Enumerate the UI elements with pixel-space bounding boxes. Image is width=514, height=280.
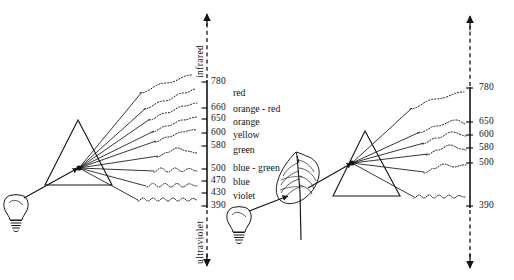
axis-label-infrared: infrared — [196, 32, 206, 78]
leaf — [276, 152, 319, 240]
tick-value-600-left: 600 — [211, 128, 226, 138]
tick-value-390-right: 390 — [479, 201, 494, 211]
spectrum-diagram: infrared ultraviolet 780 660 650 600 580… — [0, 0, 514, 280]
refracted-ray-fan-right — [350, 108, 429, 197]
color-label-orange-red: orange - red — [233, 104, 280, 114]
tick-value-430-left: 430 — [211, 188, 226, 198]
tick-value-650-left: 650 — [211, 114, 226, 124]
tick-value-580-left: 580 — [211, 141, 226, 151]
color-label-blue: blue — [233, 177, 250, 187]
tick-value-580-right: 580 — [479, 143, 494, 153]
tick-value-500-left: 500 — [211, 164, 226, 174]
tick-value-780-left: 780 — [211, 77, 226, 87]
tick-value-660-left: 660 — [211, 103, 226, 113]
tick-value-470-left: 470 — [211, 176, 226, 186]
prism-right — [333, 131, 400, 196]
tick-value-600-right: 600 — [479, 130, 494, 140]
axis-label-ultraviolet: ultraviolet — [196, 208, 206, 264]
transmitted-waves-right — [410, 92, 466, 198]
tick-value-780-right: 780 — [479, 83, 494, 93]
tick-value-650-right: 650 — [479, 117, 494, 127]
refracted-ray-fan-left — [76, 92, 158, 200]
light-bulb-right — [227, 207, 251, 244]
light-bulb-left — [4, 195, 28, 232]
wavelength-axis-right — [466, 16, 473, 268]
color-label-blue-green: blue - green — [233, 163, 280, 173]
diagram-artwork — [0, 0, 514, 280]
tick-value-500-right: 500 — [479, 158, 494, 168]
color-label-violet: violet — [233, 191, 255, 201]
ray-leaf-to-prism — [308, 163, 352, 188]
color-label-green: green — [233, 145, 255, 155]
color-label-yellow: yellow — [233, 130, 260, 140]
color-label-red: red — [233, 88, 246, 98]
color-label-orange: orange — [233, 117, 260, 127]
tick-value-390-left: 390 — [211, 201, 226, 211]
dispersed-waves-left — [138, 75, 197, 201]
